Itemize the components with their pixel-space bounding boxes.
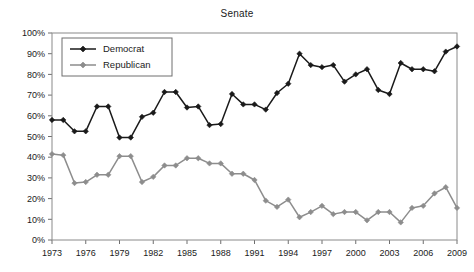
data-point-marker bbox=[196, 156, 201, 161]
x-axis-tick-label: 2006 bbox=[413, 248, 433, 258]
legend-label: Republican bbox=[103, 59, 151, 70]
x-axis-tick-label: 1979 bbox=[109, 248, 129, 258]
data-point-marker bbox=[94, 104, 99, 109]
data-point-marker bbox=[454, 205, 459, 210]
data-point-marker bbox=[128, 153, 133, 158]
data-point-marker bbox=[49, 151, 54, 156]
legend-label: Democrat bbox=[103, 43, 145, 54]
data-point-marker bbox=[376, 87, 381, 92]
y-axis-tick-label: 30% bbox=[27, 173, 45, 183]
y-axis-tick-label: 80% bbox=[27, 70, 45, 80]
data-point-marker bbox=[139, 114, 144, 119]
x-axis-tick-label: 1997 bbox=[312, 248, 332, 258]
y-axis-tick-label: 20% bbox=[27, 194, 45, 204]
data-point-marker bbox=[106, 104, 111, 109]
data-point-marker bbox=[151, 110, 156, 115]
data-point-marker bbox=[207, 161, 212, 166]
x-axis-tick-label: 2000 bbox=[346, 248, 366, 258]
y-axis-tick-group: 0%10%20%30%40%50%60%70%80%90%100% bbox=[22, 28, 52, 245]
data-point-marker bbox=[421, 67, 426, 72]
y-axis-tick-label: 100% bbox=[22, 28, 45, 38]
y-axis-tick-label: 0% bbox=[32, 235, 45, 245]
data-point-marker bbox=[117, 135, 122, 140]
y-axis-tick-label: 40% bbox=[27, 152, 45, 162]
x-axis-tick-label: 1973 bbox=[42, 248, 62, 258]
data-point-marker bbox=[139, 179, 144, 184]
data-point-marker bbox=[252, 102, 257, 107]
y-axis-tick-label: 90% bbox=[27, 49, 45, 59]
data-point-marker bbox=[128, 135, 133, 140]
data-point-marker bbox=[83, 129, 88, 134]
x-axis-tick-label: 2009 bbox=[447, 248, 467, 258]
series-republican bbox=[49, 151, 459, 225]
x-axis-tick-label: 1985 bbox=[177, 248, 197, 258]
data-point-marker bbox=[454, 44, 459, 49]
data-point-marker bbox=[72, 180, 77, 185]
series-line bbox=[52, 154, 457, 222]
x-axis-tick-group: 1973197619791982198519881991199419972000… bbox=[42, 240, 467, 258]
y-axis-tick-label: 50% bbox=[27, 132, 45, 142]
x-axis-tick-label: 1994 bbox=[278, 248, 298, 258]
data-point-marker bbox=[319, 64, 324, 69]
data-point-marker bbox=[387, 91, 392, 96]
senate-line-chart: 0%10%20%30%40%50%60%70%80%90%100% 197319… bbox=[0, 0, 474, 272]
y-axis-tick-label: 70% bbox=[27, 90, 45, 100]
x-axis-tick-label: 1976 bbox=[76, 248, 96, 258]
y-axis-tick-label: 60% bbox=[27, 111, 45, 121]
x-axis-tick-label: 2003 bbox=[379, 248, 399, 258]
data-point-marker bbox=[61, 152, 66, 157]
data-point-marker bbox=[218, 121, 223, 126]
x-axis-tick-label: 1988 bbox=[211, 248, 231, 258]
data-point-marker bbox=[162, 89, 167, 94]
chart-container: Senate 0%10%20%30%40%50%60%70%80%90%100%… bbox=[0, 0, 474, 272]
chart-legend: DemocratRepublican bbox=[62, 38, 172, 76]
data-point-marker bbox=[342, 209, 347, 214]
data-point-marker bbox=[364, 67, 369, 72]
x-axis-tick-label: 1982 bbox=[143, 248, 163, 258]
data-point-marker bbox=[49, 117, 54, 122]
x-axis-tick-label: 1991 bbox=[244, 248, 264, 258]
y-axis-tick-label: 10% bbox=[27, 215, 45, 225]
